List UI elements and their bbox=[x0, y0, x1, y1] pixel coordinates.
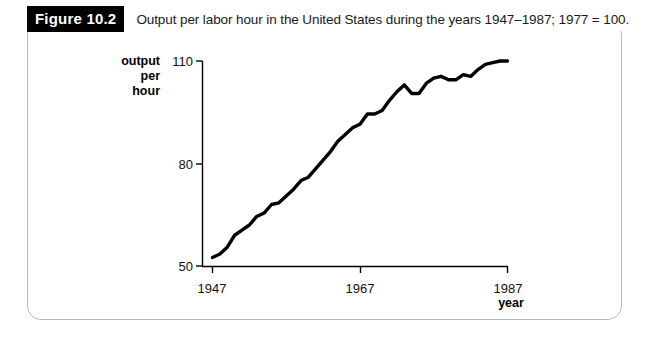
y-tick-label-110: 110 bbox=[163, 54, 193, 69]
x-axis-title: year bbox=[489, 296, 533, 311]
figure-caption-text: Output per labor hour in the United Stat… bbox=[136, 12, 629, 27]
figure-caption-row: Figure 10.2 Output per labor hour in the… bbox=[27, 7, 639, 31]
y-axis-title-line-2: per bbox=[104, 69, 160, 84]
figure-number-badge: Figure 10.2 bbox=[27, 6, 124, 32]
y-axis-title-line-1: output bbox=[104, 54, 160, 69]
y-axis-title: output per hour bbox=[104, 54, 160, 98]
figure-container: Figure 10.2 Output per labor hour in the… bbox=[0, 0, 652, 341]
x-tick-label-1987: 1987 bbox=[486, 281, 530, 296]
x-tick-label-1967: 1967 bbox=[338, 281, 382, 296]
y-tick-label-50: 50 bbox=[163, 259, 193, 274]
y-axis-title-line-3: hour bbox=[104, 84, 160, 99]
x-tick-label-1947: 1947 bbox=[190, 281, 234, 296]
y-tick-label-80: 80 bbox=[163, 157, 193, 172]
